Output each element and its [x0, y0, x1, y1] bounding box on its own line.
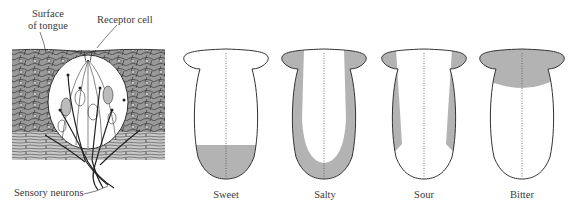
receptor-leader [97, 25, 117, 48]
caption-sour: Sour [394, 189, 454, 200]
tongue-salty [278, 49, 370, 179]
tongue-bitter [476, 49, 568, 179]
label-surface-line1: Surface [28, 8, 68, 20]
caption-salty: Salty [295, 189, 355, 200]
caption-sweet: Sweet [196, 189, 256, 200]
label-surface-line2: of tongue [28, 20, 68, 32]
label-receptor-cell: Receptor cell [97, 14, 153, 26]
taste-bud-illustration [12, 25, 165, 194]
tongue-sweet [180, 49, 272, 185]
caption-bitter: Bitter [492, 189, 552, 200]
label-sensory-neurons: Sensory neurons [14, 187, 84, 199]
figure-canvas [0, 0, 582, 213]
tongue-sour [378, 49, 470, 179]
label-surface-of-tongue: Surface of tongue [28, 8, 68, 32]
